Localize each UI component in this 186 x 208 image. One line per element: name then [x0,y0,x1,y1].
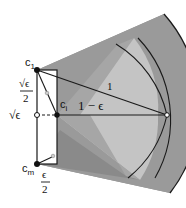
label-one-minus-eps: 1 − ϵ [78,98,104,113]
rectangle-region [37,70,57,164]
label-sqrt-eps: √ϵ [9,108,21,122]
label-one: 1 [107,80,113,92]
label-eps-half-num: ϵ [42,168,47,180]
label-sqrt-eps-half-num: √ϵ [19,77,30,89]
label-eps-half-den: 2 [42,183,48,195]
point-left-mid [35,113,40,118]
label-sqrt-eps-half-den: 2 [23,92,29,104]
point-c1-inner [45,91,49,95]
point-ci [54,112,59,117]
label-c1: c1 [25,56,36,71]
diagram-canvas: c1 √ϵ 2 √ϵ ci 1 1 − ϵ cm ϵ 2 [0,0,186,208]
point-cm-inner [51,154,55,158]
label-cm: cm [22,162,35,177]
point-right-end [165,113,170,118]
point-cm [34,161,40,167]
